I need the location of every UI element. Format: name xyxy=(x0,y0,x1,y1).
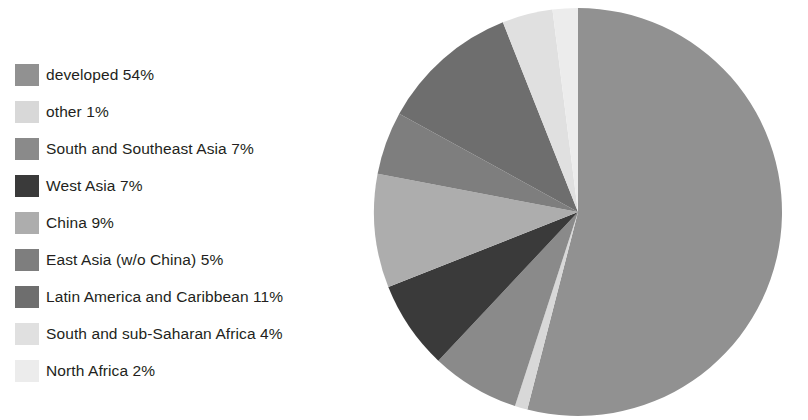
legend-item-label: China 9% xyxy=(46,214,114,231)
legend-item-label: South and Southeast Asia 7% xyxy=(46,140,254,157)
legend-swatch-icon xyxy=(15,212,39,234)
pie-chart xyxy=(373,7,783,417)
chart-legend: developed 54%other 1%South and Southeast… xyxy=(15,56,345,389)
legend-item-label: Latin America and Caribbean 11% xyxy=(46,288,283,305)
legend-item-label: West Asia 7% xyxy=(46,177,143,194)
legend-item[interactable]: other 1% xyxy=(15,93,345,130)
pie-chart-svg xyxy=(373,7,783,417)
legend-swatch-icon xyxy=(15,138,39,160)
legend-item-label: East Asia (w/o China) 5% xyxy=(46,251,223,268)
legend-item[interactable]: South and sub-Saharan Africa 4% xyxy=(15,315,345,352)
legend-item[interactable]: China 9% xyxy=(15,204,345,241)
legend-item[interactable]: South and Southeast Asia 7% xyxy=(15,130,345,167)
legend-item-label: other 1% xyxy=(46,103,109,120)
legend-item[interactable]: East Asia (w/o China) 5% xyxy=(15,241,345,278)
legend-swatch-icon xyxy=(15,286,39,308)
legend-swatch-icon xyxy=(15,175,39,197)
legend-item-label: developed 54% xyxy=(46,66,154,83)
legend-swatch-icon xyxy=(15,64,39,86)
legend-item[interactable]: developed 54% xyxy=(15,56,345,93)
legend-item[interactable]: West Asia 7% xyxy=(15,167,345,204)
legend-item[interactable]: Latin America and Caribbean 11% xyxy=(15,278,345,315)
legend-item[interactable]: North Africa 2% xyxy=(15,352,345,389)
legend-item-label: North Africa 2% xyxy=(46,362,155,379)
legend-item-label: South and sub-Saharan Africa 4% xyxy=(46,325,283,342)
pie-chart-figure: developed 54%other 1%South and Southeast… xyxy=(0,0,808,420)
legend-swatch-icon xyxy=(15,249,39,271)
legend-swatch-icon xyxy=(15,360,39,382)
legend-swatch-icon xyxy=(15,323,39,345)
legend-swatch-icon xyxy=(15,101,39,123)
